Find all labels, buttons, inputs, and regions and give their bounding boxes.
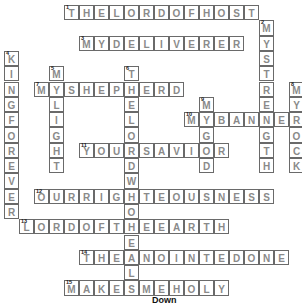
crossword-cell[interactable]: O: [124, 204, 139, 219]
crossword-cell[interactable]: T: [199, 219, 214, 234]
crossword-cell[interactable]: L: [124, 265, 139, 280]
crossword-cell[interactable]: A: [124, 250, 139, 265]
crossword-cell[interactable]: E: [154, 280, 169, 295]
crossword-cell[interactable]: T: [244, 5, 259, 20]
crossword-cell[interactable]: 10M: [184, 112, 199, 127]
crossword-cell[interactable]: Y: [49, 82, 64, 97]
crossword-cell[interactable]: D: [199, 158, 214, 173]
crossword-cell[interactable]: T: [259, 143, 274, 158]
crossword-cell[interactable]: R: [4, 143, 19, 158]
crossword-cell[interactable]: N: [4, 82, 19, 97]
crossword-cell[interactable]: V: [169, 143, 184, 158]
crossword-cell[interactable]: E: [139, 82, 154, 97]
crossword-cell[interactable]: H: [124, 219, 139, 234]
crossword-cell[interactable]: H: [124, 189, 139, 204]
crossword-cell[interactable]: P: [109, 82, 124, 97]
crossword-cell[interactable]: M: [139, 280, 154, 295]
crossword-cell[interactable]: N: [259, 112, 274, 127]
crossword-cell[interactable]: E: [274, 112, 289, 127]
crossword-cell[interactable]: 15M: [64, 280, 79, 295]
crossword-cell[interactable]: L: [109, 5, 124, 20]
crossword-cell[interactable]: O: [4, 127, 19, 142]
crossword-cell[interactable]: E: [154, 219, 169, 234]
crossword-cell[interactable]: F: [184, 5, 199, 20]
crossword-cell[interactable]: I: [49, 112, 64, 127]
crossword-cell[interactable]: Y: [289, 97, 302, 112]
crossword-cell[interactable]: D: [64, 219, 79, 234]
crossword-cell[interactable]: B: [214, 112, 229, 127]
crossword-cell[interactable]: N: [214, 189, 229, 204]
crossword-cell[interactable]: E: [124, 36, 139, 51]
crossword-cell[interactable]: A: [79, 280, 94, 295]
crossword-cell[interactable]: H: [94, 250, 109, 265]
crossword-cell[interactable]: R: [79, 189, 94, 204]
crossword-cell[interactable]: E: [124, 235, 139, 250]
crossword-cell[interactable]: H: [259, 158, 274, 173]
crossword-cell[interactable]: L: [124, 112, 139, 127]
crossword-cell[interactable]: O: [94, 143, 109, 158]
crossword-cell[interactable]: T: [259, 66, 274, 81]
crossword-cell[interactable]: D: [229, 250, 244, 265]
crossword-cell[interactable]: E: [259, 97, 274, 112]
crossword-cell[interactable]: E: [124, 97, 139, 112]
crossword-cell[interactable]: V: [4, 173, 19, 188]
crossword-cell[interactable]: S: [124, 280, 139, 295]
crossword-cell[interactable]: D: [109, 36, 124, 51]
crossword-cell[interactable]: Y: [199, 112, 214, 127]
crossword-cell[interactable]: H: [124, 82, 139, 97]
crossword-cell[interactable]: I: [4, 66, 19, 81]
crossword-cell[interactable]: E: [184, 36, 199, 51]
crossword-cell[interactable]: E: [214, 250, 229, 265]
crossword-cell[interactable]: E: [94, 5, 109, 20]
crossword-cell[interactable]: E: [109, 280, 124, 295]
crossword-cell[interactable]: O: [169, 189, 184, 204]
crossword-cell[interactable]: K: [289, 158, 302, 173]
crossword-cell[interactable]: E: [4, 158, 19, 173]
crossword-cell[interactable]: K: [94, 280, 109, 295]
crossword-cell[interactable]: G: [4, 97, 19, 112]
crossword-cell[interactable]: S: [229, 5, 244, 20]
crossword-cell[interactable]: O: [124, 127, 139, 142]
crossword-cell[interactable]: E: [214, 36, 229, 51]
crossword-cell[interactable]: W: [124, 173, 139, 188]
crossword-cell[interactable]: O: [34, 219, 49, 234]
crossword-cell[interactable]: N: [184, 250, 199, 265]
crossword-cell[interactable]: R: [214, 143, 229, 158]
crossword-cell[interactable]: H: [49, 143, 64, 158]
crossword-cell[interactable]: D: [169, 82, 184, 97]
crossword-cell[interactable]: V: [169, 36, 184, 51]
crossword-cell[interactable]: O: [124, 5, 139, 20]
crossword-cell[interactable]: E: [229, 189, 244, 204]
crossword-cell[interactable]: 6T: [124, 66, 139, 81]
crossword-cell[interactable]: I: [94, 189, 109, 204]
crossword-cell[interactable]: H: [169, 280, 184, 295]
crossword-cell[interactable]: H: [79, 82, 94, 97]
crossword-cell[interactable]: R: [259, 82, 274, 97]
crossword-cell[interactable]: S: [139, 143, 154, 158]
crossword-cell[interactable]: E: [109, 250, 124, 265]
crossword-cell[interactable]: 13L: [19, 219, 34, 234]
crossword-cell[interactable]: A: [229, 112, 244, 127]
crossword-cell[interactable]: C: [289, 143, 302, 158]
crossword-cell[interactable]: H: [79, 5, 94, 20]
crossword-cell[interactable]: I: [154, 36, 169, 51]
crossword-cell[interactable]: O: [214, 5, 229, 20]
crossword-cell[interactable]: R: [64, 189, 79, 204]
crossword-cell[interactable]: E: [94, 82, 109, 97]
crossword-cell[interactable]: G: [109, 189, 124, 204]
crossword-cell[interactable]: 14T: [79, 250, 94, 265]
crossword-cell[interactable]: 1T: [64, 5, 79, 20]
crossword-cell[interactable]: S: [259, 51, 274, 66]
crossword-cell[interactable]: O: [244, 250, 259, 265]
crossword-cell[interactable]: 9M: [199, 97, 214, 112]
crossword-cell[interactable]: R: [229, 36, 244, 51]
crossword-cell[interactable]: Y: [214, 280, 229, 295]
crossword-cell[interactable]: O: [289, 127, 302, 142]
crossword-cell[interactable]: 12O: [34, 189, 49, 204]
crossword-cell[interactable]: T: [199, 250, 214, 265]
crossword-cell[interactable]: I: [169, 250, 184, 265]
crossword-cell[interactable]: N: [259, 250, 274, 265]
crossword-cell[interactable]: Y: [94, 36, 109, 51]
crossword-cell[interactable]: R: [154, 82, 169, 97]
crossword-cell[interactable]: G: [199, 127, 214, 142]
